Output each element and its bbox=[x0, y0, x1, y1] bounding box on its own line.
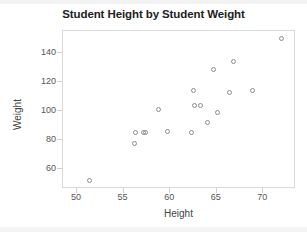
x-tick-mark bbox=[123, 188, 124, 193]
x-tick-mark bbox=[216, 188, 217, 193]
x-tick-label: 60 bbox=[154, 192, 184, 202]
scatter-plot-figure: Student Height by Student Weight 6080100… bbox=[0, 0, 307, 232]
y-axis-title: Weight bbox=[12, 80, 23, 150]
x-tick-mark bbox=[262, 188, 263, 193]
x-axis-ticks: 5055606570 bbox=[0, 0, 307, 232]
x-tick-label: 50 bbox=[61, 192, 91, 202]
x-tick-label: 55 bbox=[108, 192, 138, 202]
x-tick-mark bbox=[169, 188, 170, 193]
x-tick-mark bbox=[76, 188, 77, 193]
x-tick-label: 70 bbox=[247, 192, 277, 202]
x-tick-label: 65 bbox=[201, 192, 231, 202]
x-axis-title: Height bbox=[62, 208, 295, 219]
